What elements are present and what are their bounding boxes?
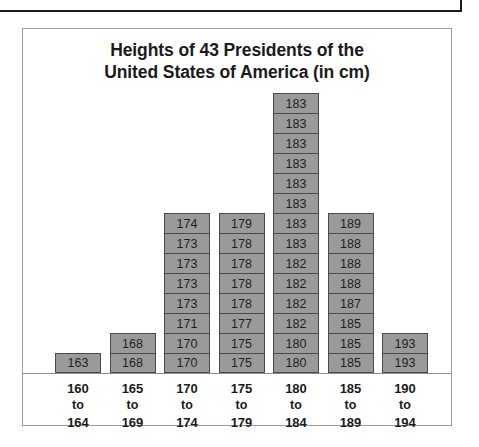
x-axis-tick-label-line: 164 — [55, 414, 101, 431]
plot-area: 1631681681701701711731731731731741751751… — [23, 29, 451, 373]
stack-cell: 183 — [273, 133, 319, 153]
stack-cell: 188 — [328, 253, 374, 273]
x-axis-tick-label-line: 174 — [164, 414, 210, 431]
stack-cell: 179 — [219, 213, 265, 233]
x-axis-tick-label: 180to184 — [273, 380, 319, 431]
stack-column: 1801801821821821821831831831831831831831… — [273, 93, 319, 373]
x-axis-tick-label-line: 170 — [164, 380, 210, 397]
stack-cell: 183 — [273, 153, 319, 173]
stack-cell: 173 — [164, 233, 210, 253]
x-axis-tick-label-line: 185 — [328, 380, 374, 397]
stack-cell: 178 — [219, 293, 265, 313]
stack-cell: 185 — [328, 333, 374, 353]
stack-cell: 183 — [273, 93, 319, 113]
stack-column: 168168 — [110, 333, 156, 373]
x-axis-tick-label-line: to — [328, 397, 374, 414]
stack-cell: 188 — [328, 273, 374, 293]
stack-cell: 187 — [328, 293, 374, 313]
stack-column: 175175177178178178178179 — [219, 213, 265, 373]
stack-column: 170170171173173173173174 — [164, 213, 210, 373]
x-axis-tick-label-line: 165 — [110, 380, 156, 397]
stack-cell: 171 — [164, 313, 210, 333]
stack-cell: 180 — [273, 353, 319, 373]
stack-cell: 183 — [273, 173, 319, 193]
x-axis-tick-label-line: 194 — [382, 414, 428, 431]
stack-column: 193193 — [382, 333, 428, 373]
stack-cell: 182 — [273, 253, 319, 273]
x-axis-tick-label-line: to — [219, 397, 265, 414]
x-axis-tick-label: 175to179 — [219, 380, 265, 431]
stack-cell: 183 — [273, 233, 319, 253]
stack-cell: 178 — [219, 253, 265, 273]
stack-cell: 178 — [219, 273, 265, 293]
stack-cell: 182 — [273, 313, 319, 333]
stack-cell: 182 — [273, 273, 319, 293]
x-axis-tick-label-line: 189 — [328, 414, 374, 431]
x-axis-tick-label-line: 180 — [273, 380, 319, 397]
x-axis-tick-label: 185to189 — [328, 380, 374, 431]
x-axis-tick-label-line: 179 — [219, 414, 265, 431]
stack-cell: 182 — [273, 293, 319, 313]
stack-column: 163 — [55, 353, 101, 373]
stack-cell: 185 — [328, 353, 374, 373]
stack-cell: 173 — [164, 273, 210, 293]
stack-cell: 193 — [382, 333, 428, 353]
stack-cell: 170 — [164, 353, 210, 373]
stack-cell: 177 — [219, 313, 265, 333]
x-axis-tick-label: 165to169 — [110, 380, 156, 431]
x-axis-tick-label-line: to — [273, 397, 319, 414]
x-axis-tick-label-line: 175 — [219, 380, 265, 397]
stack-cell: 170 — [164, 333, 210, 353]
x-axis-labels: 160to164165to169170to174175to179180to184… — [23, 374, 451, 427]
x-axis-tick-label-line: to — [110, 397, 156, 414]
stack-cell: 168 — [110, 353, 156, 373]
x-axis-tick-label-line: 160 — [55, 380, 101, 397]
x-axis-tick-label-line: to — [382, 397, 428, 414]
stack-cell: 185 — [328, 313, 374, 333]
stack-cell: 175 — [219, 333, 265, 353]
stack-cell: 174 — [164, 213, 210, 233]
stack-cell: 168 — [110, 333, 156, 353]
x-axis-tick-label-line: to — [55, 397, 101, 414]
stack-cell: 173 — [164, 293, 210, 313]
stack-cell: 178 — [219, 233, 265, 253]
stack-cell: 175 — [219, 353, 265, 373]
x-axis-tick-label: 190to194 — [382, 380, 428, 431]
stack-cell: 189 — [328, 213, 374, 233]
stack-cell: 188 — [328, 233, 374, 253]
stack-cell: 180 — [273, 333, 319, 353]
x-axis-tick-label-line: 190 — [382, 380, 428, 397]
x-axis-tick-label: 160to164 — [55, 380, 101, 431]
x-axis-tick-label-line: 184 — [273, 414, 319, 431]
stack-cell: 183 — [273, 113, 319, 133]
stack-cell: 193 — [382, 353, 428, 373]
x-axis-tick-label: 170to174 — [164, 380, 210, 431]
x-axis-tick-label-line: 169 — [110, 414, 156, 431]
stack-cell: 163 — [55, 353, 101, 373]
clipped-top-box — [0, 0, 462, 12]
stack-column: 185185185187188188188189 — [328, 213, 374, 373]
stack-cell: 173 — [164, 253, 210, 273]
stack-cell: 183 — [273, 213, 319, 233]
x-axis-tick-label-line: to — [164, 397, 210, 414]
chart-frame: Heights of 43 Presidents of the United S… — [22, 28, 452, 426]
stack-cell: 183 — [273, 193, 319, 213]
